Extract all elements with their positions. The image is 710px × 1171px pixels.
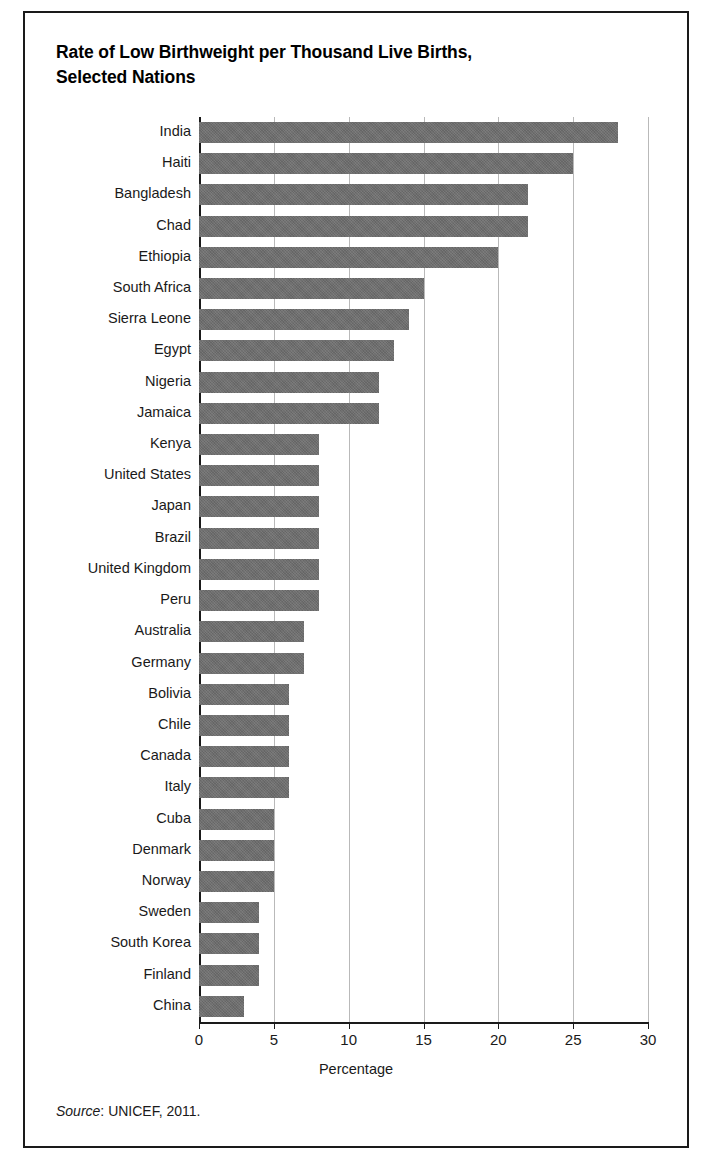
bar-row [199, 211, 648, 242]
y-axis-category-label: Sweden [31, 903, 191, 919]
y-axis-category-label: Kenya [31, 435, 191, 451]
x-axis-tick [199, 1022, 200, 1029]
grid-line [648, 117, 649, 1022]
x-axis-title: Percentage [25, 1061, 687, 1077]
bar [199, 153, 573, 174]
x-axis-tick-label: 15 [404, 1031, 444, 1048]
source-note: Source: UNICEF, 2011. [56, 1103, 200, 1119]
x-axis-tick-label: 5 [254, 1031, 294, 1048]
bar [199, 184, 528, 205]
bar-row [199, 679, 648, 710]
x-axis-tick [573, 1022, 574, 1029]
bar-row [199, 523, 648, 554]
bar [199, 715, 289, 736]
y-axis-category-label: Norway [31, 872, 191, 888]
bar-row [199, 585, 648, 616]
bar-row [199, 117, 648, 148]
bar [199, 996, 244, 1017]
y-axis-category-label: Australia [31, 622, 191, 638]
bar-row [199, 616, 648, 647]
figure-frame: Rate of Low Birthweight per Thousand Liv… [23, 11, 689, 1148]
bar-row [199, 835, 648, 866]
source-text: : UNICEF, 2011. [100, 1103, 200, 1119]
y-axis-category-label: India [31, 123, 191, 139]
bar-row [199, 367, 648, 398]
y-axis-category-label: Sierra Leone [31, 310, 191, 326]
bar-row [199, 491, 648, 522]
y-axis-category-label: Ethiopia [31, 248, 191, 264]
bar [199, 309, 409, 330]
figure-title-line-2: Selected Nations [56, 67, 195, 87]
y-axis-category-label: Nigeria [31, 373, 191, 389]
x-axis-tick [274, 1022, 275, 1029]
y-axis-category-label: Cuba [31, 810, 191, 826]
y-axis-category-label: Italy [31, 778, 191, 794]
bar [199, 122, 618, 143]
bar [199, 372, 379, 393]
bar-row [199, 804, 648, 835]
bar [199, 777, 289, 798]
bar-row [199, 866, 648, 897]
bar-row [199, 928, 648, 959]
bar [199, 247, 498, 268]
bar-row [199, 429, 648, 460]
y-axis-category-label: Peru [31, 591, 191, 607]
y-axis-category-label: China [31, 997, 191, 1013]
y-axis-category-label: Germany [31, 654, 191, 670]
bar [199, 809, 274, 830]
source-label: Source [56, 1103, 100, 1119]
bar-row [199, 991, 648, 1022]
plot-area [199, 117, 648, 1022]
x-axis-tick [648, 1022, 649, 1029]
bar [199, 559, 319, 580]
y-axis-category-label: Egypt [31, 341, 191, 357]
bar-row [199, 242, 648, 273]
y-axis-category-label: South Korea [31, 934, 191, 950]
y-axis-category-label: Chad [31, 217, 191, 233]
bar-row [199, 554, 648, 585]
bar [199, 434, 319, 455]
bar [199, 902, 259, 923]
bar-row [199, 179, 648, 210]
bar [199, 528, 319, 549]
bar-row [199, 960, 648, 991]
bar-row [199, 335, 648, 366]
bar-row [199, 648, 648, 679]
x-axis-tick [349, 1022, 350, 1029]
figure-title: Rate of Low Birthweight per Thousand Liv… [56, 40, 656, 90]
bar-row [199, 398, 648, 429]
x-axis-tick-label: 20 [478, 1031, 518, 1048]
bar [199, 965, 259, 986]
bar-row [199, 897, 648, 928]
y-axis-category-label: Finland [31, 966, 191, 982]
bar [199, 746, 289, 767]
y-axis-category-label: Denmark [31, 841, 191, 857]
bar [199, 496, 319, 517]
bar [199, 465, 319, 486]
figure-title-line-1: Rate of Low Birthweight per Thousand Liv… [56, 42, 472, 62]
y-axis-category-label: Canada [31, 747, 191, 763]
x-axis-tick-label: 25 [553, 1031, 593, 1048]
y-axis-category-label: South Africa [31, 279, 191, 295]
bar [199, 278, 424, 299]
x-axis-tick [424, 1022, 425, 1029]
bar-row [199, 304, 648, 335]
y-axis-category-label: Bangladesh [31, 185, 191, 201]
x-axis-tick-label: 10 [329, 1031, 369, 1048]
y-axis-category-label: Japan [31, 497, 191, 513]
bar [199, 590, 319, 611]
bar [199, 871, 274, 892]
bar [199, 933, 259, 954]
bar-row [199, 741, 648, 772]
bar-row [199, 710, 648, 741]
bar [199, 216, 528, 237]
bar [199, 340, 394, 361]
bar-row [199, 273, 648, 304]
bar [199, 621, 304, 642]
y-axis-category-label: United Kingdom [31, 560, 191, 576]
y-axis-category-label: Bolivia [31, 685, 191, 701]
bar [199, 840, 274, 861]
y-axis-category-label: United States [31, 466, 191, 482]
bar-row [199, 148, 648, 179]
x-axis-tick-label: 0 [179, 1031, 219, 1048]
